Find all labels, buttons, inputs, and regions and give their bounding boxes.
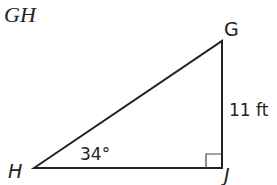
- right-angle-marker: [206, 154, 222, 168]
- angle-label: 34°: [80, 144, 110, 164]
- vertex-label-h: H: [8, 160, 22, 182]
- vertex-label-g: G: [224, 18, 239, 40]
- triangle-diagram: G 11 ft 34° H J: [0, 0, 277, 185]
- side-length-label: 11 ft: [229, 100, 269, 120]
- triangle-ghj: [34, 41, 222, 168]
